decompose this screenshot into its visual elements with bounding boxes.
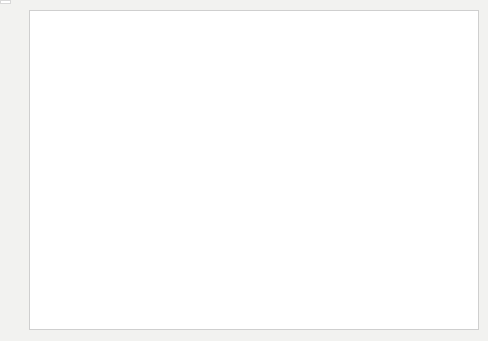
legend-key xyxy=(0,0,11,4)
figure-greenhouse-gas-emissions xyxy=(0,0,488,341)
chart-svg xyxy=(0,0,488,341)
